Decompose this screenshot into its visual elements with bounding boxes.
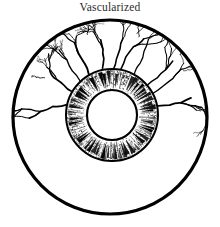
vascularized-eye-figure: Vascularized <box>0 0 220 227</box>
iris-group <box>66 69 158 161</box>
eye-diagram-svg <box>0 0 220 227</box>
